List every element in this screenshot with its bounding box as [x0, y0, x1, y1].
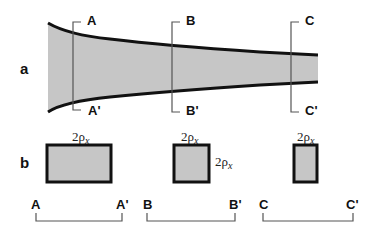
- scale-bracket-b: [147, 213, 235, 221]
- width-label-a: 2ρx: [72, 130, 89, 143]
- section-label-b: B: [186, 14, 195, 27]
- section-label-a-prime: A': [88, 104, 100, 117]
- scale-label-b-prime: B': [229, 198, 241, 211]
- scale-label-a: A: [31, 198, 40, 211]
- scale-label-b: B: [143, 198, 152, 211]
- scale-bracket-c: [263, 213, 353, 221]
- height-label-b: 2ρx: [215, 155, 232, 168]
- section-label-c: C: [305, 14, 314, 27]
- section-label-b-prime: B': [186, 104, 198, 117]
- width-label-b: 2ρx: [181, 130, 198, 143]
- scale-bracket-a: [36, 213, 122, 221]
- section-label-c-prime: C': [305, 104, 317, 117]
- width-label-c: 2ρx: [297, 130, 314, 143]
- cross-section-b: [174, 145, 209, 182]
- cross-section-a: [47, 145, 111, 182]
- panel-label-b: b: [20, 155, 29, 170]
- scale-label-c-prime: C': [346, 198, 358, 211]
- section-label-a: A: [87, 14, 96, 27]
- cross-section-c: [294, 145, 317, 182]
- scale-label-a-prime: A': [116, 198, 128, 211]
- figure: a b A B C A' B' C' 2ρx 2ρx 2ρx 2ρx A A' …: [0, 0, 374, 235]
- panel-label-a: a: [20, 61, 28, 76]
- scale-label-c: C: [259, 198, 268, 211]
